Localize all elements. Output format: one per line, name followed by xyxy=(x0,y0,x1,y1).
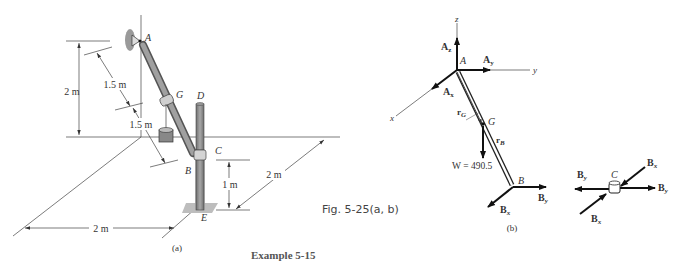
point-label-a: A xyxy=(144,32,152,43)
force-label-ax: Ax xyxy=(443,86,454,99)
force-label-bx-top: Bx xyxy=(647,157,658,170)
figure-caption: Fig. 5-25(a, b) xyxy=(322,203,399,216)
point-label-d: D xyxy=(196,90,205,101)
dim-label-depth-y: 2 m xyxy=(266,169,282,180)
floor-front-edge xyxy=(162,209,195,238)
part-b-label: (b) xyxy=(507,223,518,233)
diagram-b: z y x Az Ay Ax A rG rB G W = 490.5 B By … xyxy=(389,14,549,233)
force-bx-bottom-arrow xyxy=(580,194,606,214)
point-label-c-fbd: C xyxy=(611,169,618,180)
point-label-a-fbd: A xyxy=(459,55,467,66)
point-label-g: G xyxy=(176,89,183,100)
dim-label-ag: 1.5 m xyxy=(104,79,127,90)
dim-label-height-c: 1 m xyxy=(222,179,238,190)
diagram-c-collar: By By Bx Bx C xyxy=(575,157,669,226)
figure-canvas: 2 m 1.5 m 1.5 m A G D E xyxy=(0,0,681,263)
axis-label-z: z xyxy=(454,14,459,24)
force-label-bx-bottom: Bx xyxy=(591,213,602,226)
floor-x-axis-line xyxy=(13,137,141,236)
diagram-a: 2 m 1.5 m 1.5 m A G D E xyxy=(13,15,340,253)
force-label-by-left: By xyxy=(577,169,588,182)
example-title: Example 5-15 xyxy=(251,249,316,261)
force-bx-top-arrow xyxy=(621,167,645,186)
force-label-by: By xyxy=(538,192,549,205)
dim-label-height-a: 2 m xyxy=(64,86,80,97)
vector-label-rb: rB xyxy=(496,135,505,147)
force-label-by-right: By xyxy=(658,182,669,195)
vector-label-rg: rG xyxy=(457,107,466,119)
axis-label-x: x xyxy=(389,113,394,123)
dim-label-gb: 1.5 m xyxy=(130,119,153,130)
part-a-label: (a) xyxy=(172,243,182,253)
force-label-az: Az xyxy=(441,41,451,54)
point-label-c: C xyxy=(215,145,222,156)
force-label-bx: Bx xyxy=(500,204,511,217)
point-label-g-fbd: G xyxy=(488,116,495,127)
collar-c xyxy=(194,150,206,160)
weight-label: W = 490.5 xyxy=(452,161,493,171)
dim-label-width-x: 2 m xyxy=(93,223,109,234)
point-label-b-fbd: B xyxy=(518,175,524,186)
force-label-ay: Ay xyxy=(483,54,494,67)
point-label-b: B xyxy=(185,165,191,176)
point-label-e: E xyxy=(200,212,207,223)
axis-label-y: y xyxy=(532,65,537,75)
